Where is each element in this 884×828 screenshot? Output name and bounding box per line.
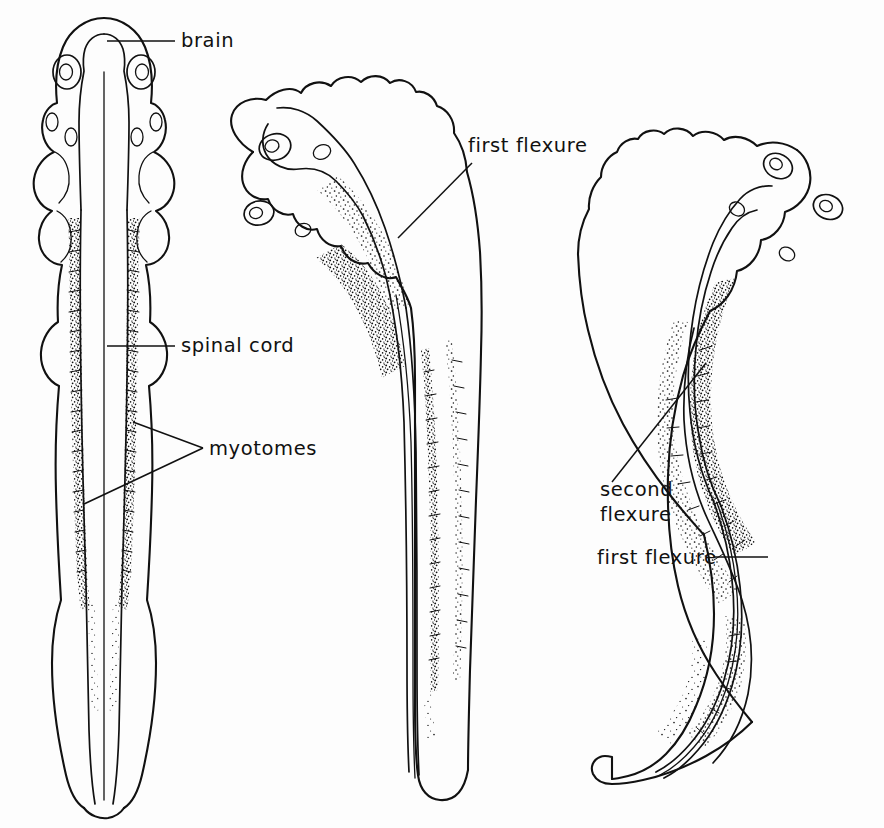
label-first-flexure-center: first flexure xyxy=(468,134,588,157)
label-second-flexure-line1: second xyxy=(600,478,673,501)
label-first-flexure-right: first flexure xyxy=(597,546,717,569)
label-brain: brain xyxy=(181,29,234,52)
label-second-flexure-line2: flexure xyxy=(600,503,672,526)
figure-plate: brain spinal cord myotomes first flexure… xyxy=(0,0,884,828)
label-myotomes: myotomes xyxy=(209,437,317,460)
label-spinal-cord: spinal cord xyxy=(181,334,294,357)
embryo-nervous-system-figure: brain spinal cord myotomes first flexure… xyxy=(0,0,884,828)
